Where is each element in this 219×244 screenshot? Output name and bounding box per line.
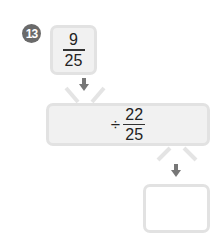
answer-box[interactable] — [143, 184, 210, 233]
operation-box: ÷ 22 25 — [46, 103, 210, 146]
fraction-bar — [123, 124, 145, 126]
operation-denominator: 25 — [125, 126, 143, 143]
operator-symbol: ÷ — [111, 115, 120, 135]
start-numerator: 9 — [69, 31, 78, 48]
start-fraction: 9 25 — [63, 31, 85, 69]
funnel-in-icon — [64, 86, 106, 104]
start-denominator: 25 — [65, 52, 83, 69]
fraction-bar — [63, 49, 85, 51]
start-value-box: 9 25 — [50, 25, 97, 75]
funnel-out-icon — [156, 146, 198, 162]
problem-number-badge: 13 — [22, 24, 41, 43]
operation-fraction: 22 25 — [123, 106, 145, 144]
operation-numerator: 22 — [125, 106, 143, 123]
down-arrow-icon — [171, 164, 181, 178]
